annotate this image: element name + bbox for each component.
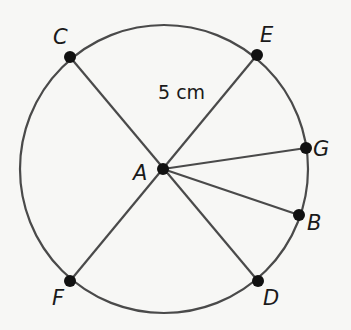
- point-e: [251, 49, 263, 61]
- label-b: B: [307, 211, 321, 235]
- circle-diagram: C E G B D F A 5 cm: [0, 0, 351, 330]
- label-e: E: [260, 23, 274, 47]
- label-c: C: [53, 25, 68, 49]
- point-a: [157, 163, 169, 175]
- radius-ag: [163, 148, 306, 169]
- point-c: [64, 51, 76, 63]
- label-d: D: [263, 286, 279, 310]
- label-a: A: [131, 161, 147, 185]
- point-b: [293, 209, 305, 221]
- point-g: [300, 142, 312, 154]
- label-g: G: [313, 137, 329, 161]
- point-f: [64, 275, 76, 287]
- radius-measurement-label: 5 cm: [158, 81, 205, 103]
- label-f: F: [52, 286, 65, 310]
